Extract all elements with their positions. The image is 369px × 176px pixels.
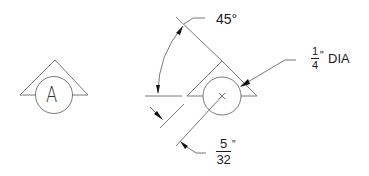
- angle-dimension: [145, 17, 222, 96]
- diameter-suffix-label: DIA: [328, 52, 350, 65]
- offset-numerator: 5: [216, 137, 231, 152]
- offset-leader: [187, 147, 206, 153]
- offset-arrow-right-icon: [180, 141, 188, 149]
- right-datum-symbol: [187, 61, 257, 115]
- offset-denominator: 32: [216, 152, 230, 166]
- angle-label: 45°: [216, 12, 237, 26]
- offset-extension-short: [160, 104, 184, 128]
- angle-arrow-bottom-icon: [156, 85, 160, 94]
- offset-dimension: [150, 96, 222, 153]
- diameter-dimension: [240, 60, 296, 87]
- diameter-denominator: 4: [312, 59, 318, 71]
- offset-fraction: 5 32: [216, 137, 231, 166]
- diameter-inch-mark: ": [320, 51, 324, 61]
- angle-arc: [158, 26, 183, 93]
- right-triangle-side-right: [222, 61, 257, 96]
- offset-inch-mark: ": [232, 140, 236, 150]
- diameter-numerator: 1: [311, 46, 319, 59]
- angle-leader: [184, 18, 205, 24]
- diameter-fraction: 1 4: [311, 46, 319, 71]
- right-triangle-side-left: [187, 61, 222, 96]
- diameter-leader: [241, 60, 296, 86]
- datum-letter-label: A: [46, 84, 57, 106]
